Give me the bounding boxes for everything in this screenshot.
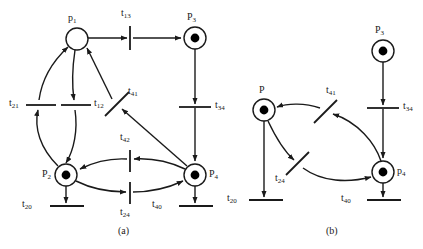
arc-pb-t24b: [268, 121, 294, 160]
place-label-p1: p1: [68, 13, 77, 23]
place-label-p4b: p4: [397, 166, 406, 176]
transition-label-t20b: t20: [227, 193, 237, 203]
place-label-p3b: P3: [375, 25, 384, 35]
panel-b-caption: (b): [326, 225, 338, 236]
token-p4b: [379, 168, 388, 177]
panel-a-caption: (a): [118, 225, 129, 236]
token-p4: [191, 171, 200, 180]
arc-p2-t24: [76, 181, 126, 192]
token-pb: [260, 106, 269, 115]
arc-p1-t12: [73, 50, 75, 100]
place-label-pb: P: [259, 85, 265, 95]
transition-label-t34: t34: [215, 100, 225, 110]
petri-net-canvas: [0, 0, 423, 249]
place-p1[interactable]: [66, 28, 88, 50]
transition-label-t40b: t40: [341, 193, 351, 203]
transition-label-t24: t24: [120, 207, 130, 217]
arc-t41b-pb: [277, 104, 320, 108]
arc-t41-p1: [87, 48, 112, 99]
arc-t21-p1: [39, 47, 68, 100]
transition-label-t24b: t24: [275, 173, 285, 183]
place-label-p4: P4: [209, 169, 218, 179]
token-p2: [62, 171, 71, 180]
arc-p2-t21: [37, 110, 58, 166]
arc-t24b-p4b: [303, 168, 371, 180]
transition-label-t20: t20: [22, 199, 32, 209]
petri-net-figure: p1 P3 P2 P4 t13 t34 t21 t12 t41 t42 t24 …: [0, 0, 423, 249]
arc-t12-p2: [66, 110, 76, 163]
token-p3: [191, 34, 200, 43]
arc-p4-t42: [134, 159, 185, 169]
arc-t42-p2: [80, 159, 127, 169]
panel-a: [26, 26, 213, 206]
place-label-p2: P2: [42, 169, 51, 179]
transition-label-t34b: t34: [403, 101, 413, 111]
transition-label-t42: t42: [120, 132, 130, 142]
transition-label-t21: t21: [9, 98, 19, 108]
transition-label-t41: t41: [128, 86, 138, 96]
transition-label-t41b: t41: [326, 85, 336, 95]
arc-p4-t41: [122, 109, 187, 166]
panel-b: [249, 40, 401, 200]
transition-label-t40: t40: [152, 199, 162, 209]
place-label-p3: P3: [187, 12, 196, 22]
transition-label-t12: t12: [94, 98, 104, 108]
transition-label-t13: t13: [121, 8, 131, 18]
transition-t41b[interactable]: [314, 100, 337, 123]
token-p3b: [379, 47, 388, 56]
arc-t24-p4: [133, 181, 183, 192]
arc-p4b-t41b: [333, 114, 381, 161]
